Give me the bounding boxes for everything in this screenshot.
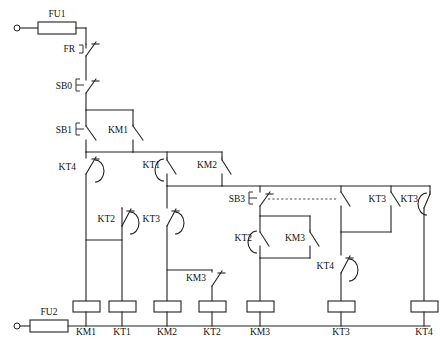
coil-kt2-body bbox=[199, 301, 226, 312]
coil-km3-label: KM3 bbox=[250, 327, 270, 337]
contact-sb3-no bbox=[341, 192, 350, 232]
contact-kt3-nc-label: KT3 bbox=[143, 214, 161, 224]
contact-km3-seal-label: KM3 bbox=[285, 233, 305, 243]
contact-sb1-label: SB1 bbox=[56, 125, 73, 135]
contact-fr-label: FR bbox=[63, 44, 75, 54]
contact-km1-seal bbox=[133, 125, 143, 152]
contact-sb0-label: SB0 bbox=[56, 81, 73, 91]
coil-kt4-label: KT4 bbox=[415, 327, 433, 337]
coil-kt4-body bbox=[411, 301, 438, 312]
coil-kt3-label: KT3 bbox=[332, 327, 350, 337]
contact-kt2-nc-label: KT2 bbox=[98, 214, 116, 224]
contact-kt2-no-delay-label: KT2 bbox=[235, 233, 253, 243]
contact-kt4-nc-2-label: KT4 bbox=[317, 261, 335, 271]
contact-km2-seal bbox=[222, 158, 231, 186]
coil-kt1-label: KT1 bbox=[113, 327, 131, 337]
contact-kt4-nc-label: KT4 bbox=[59, 162, 77, 172]
contact-kt2-nc bbox=[122, 208, 139, 306]
fuse-fu1-label: FU1 bbox=[49, 9, 66, 19]
contact-kt3-no bbox=[391, 192, 400, 232]
coil-km3-body bbox=[247, 301, 274, 312]
contact-sb0 bbox=[76, 79, 99, 110]
contact-kt3-no-label: KT3 bbox=[369, 194, 387, 204]
coil-row bbox=[73, 301, 438, 326]
contact-km2-seal-label: KM2 bbox=[197, 160, 217, 170]
contact-kt3-no-delay bbox=[418, 192, 430, 306]
contact-kt3-no-delay-label: KT3 bbox=[401, 194, 419, 204]
contact-kt4-nc-2 bbox=[341, 232, 358, 306]
fuse-fu2-label: FU2 bbox=[41, 307, 58, 317]
contact-kt3-nc bbox=[167, 186, 184, 306]
coil-kt2-label: KT2 bbox=[203, 327, 221, 337]
terminal-top-left bbox=[14, 25, 20, 31]
coil-kt1-body bbox=[109, 301, 136, 312]
fuse-fu1-body bbox=[38, 22, 76, 34]
contact-sb3-nc bbox=[249, 192, 273, 216]
contact-sb1 bbox=[76, 110, 96, 152]
terminal-bottom-left bbox=[14, 323, 20, 329]
contact-fr bbox=[79, 42, 99, 80]
coil-kt3-body bbox=[328, 301, 355, 312]
coil-km2-body bbox=[154, 301, 181, 312]
contact-km3-seal bbox=[310, 230, 319, 258]
ladder-diagram: FU1 FR SB0 SB1 KM1 bbox=[0, 0, 440, 342]
coil-km1-body bbox=[73, 301, 100, 312]
top-supply-line bbox=[14, 22, 86, 34]
contact-kt4-nc bbox=[86, 152, 104, 306]
coil-km1-label: KM1 bbox=[76, 327, 96, 337]
contact-sb3-label: SB3 bbox=[229, 194, 246, 204]
contact-km1-seal-label: KM1 bbox=[108, 125, 128, 135]
contact-km3-nc-label: KM3 bbox=[186, 273, 206, 283]
contact-kt1-label: KT1 bbox=[143, 160, 161, 170]
coil-km2-label: KM2 bbox=[157, 327, 177, 337]
fuse-fu2-body bbox=[30, 320, 68, 332]
